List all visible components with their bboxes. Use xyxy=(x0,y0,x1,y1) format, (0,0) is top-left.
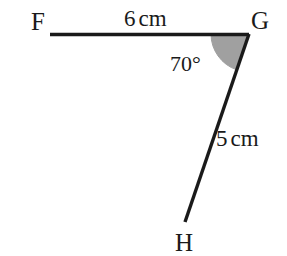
side-length-unit-gh: cm xyxy=(231,126,259,151)
vertex-label-g: G xyxy=(251,8,269,33)
side-length-label-gh: 5cm xyxy=(216,127,259,150)
side-length-unit-fg: cm xyxy=(139,6,167,31)
vertex-label-h: H xyxy=(175,230,193,255)
side-length-value-gh: 5 xyxy=(216,126,228,151)
geometry-diagram-canvas: F G H 6cm 5cm 70° xyxy=(0,0,287,256)
side-length-label-fg: 6cm xyxy=(124,7,167,30)
angle-measure-label-g: 70° xyxy=(170,53,201,75)
vertex-label-f: F xyxy=(31,9,45,34)
side-length-value-fg: 6 xyxy=(124,6,136,31)
